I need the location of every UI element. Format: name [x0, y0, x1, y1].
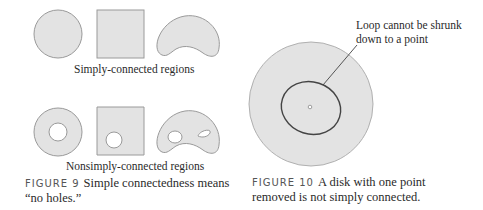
punctured-disk: [249, 42, 373, 166]
figure10-caption: FIGURE 10A disk with one point removed i…: [252, 175, 426, 205]
square-with-hole: [97, 107, 144, 155]
simply-disk: [34, 10, 82, 58]
annotation-line2: down to a point: [356, 33, 428, 45]
figure9-caption-line2: “no holes.”: [25, 191, 81, 205]
simply-kidney: [157, 16, 219, 57]
figure10-label: FIGURE 10: [252, 177, 314, 188]
simply-connected-label: Simply-connected regions: [74, 63, 194, 75]
nonsimply-connected-label: Nonsimply-connected regions: [66, 160, 204, 172]
annulus: [34, 108, 82, 156]
simply-square: [97, 10, 144, 58]
figure9-caption-line1: Simple connectedness means: [84, 176, 230, 190]
figure9-label: FIGURE 9: [25, 178, 80, 189]
figure9-caption: FIGURE 9Simple connectedness means “no h…: [25, 176, 229, 206]
figure10-caption-line2: removed is not simply connected.: [252, 190, 420, 204]
figure10-caption-line1: A disk with one point: [318, 175, 426, 189]
kidney-with-holes: [157, 111, 219, 154]
annotation-line1: Loop cannot be shrunk: [356, 19, 462, 31]
loop-annotation: Loop cannot be shrunk down to a point: [356, 18, 462, 46]
removed-point: [308, 105, 312, 109]
